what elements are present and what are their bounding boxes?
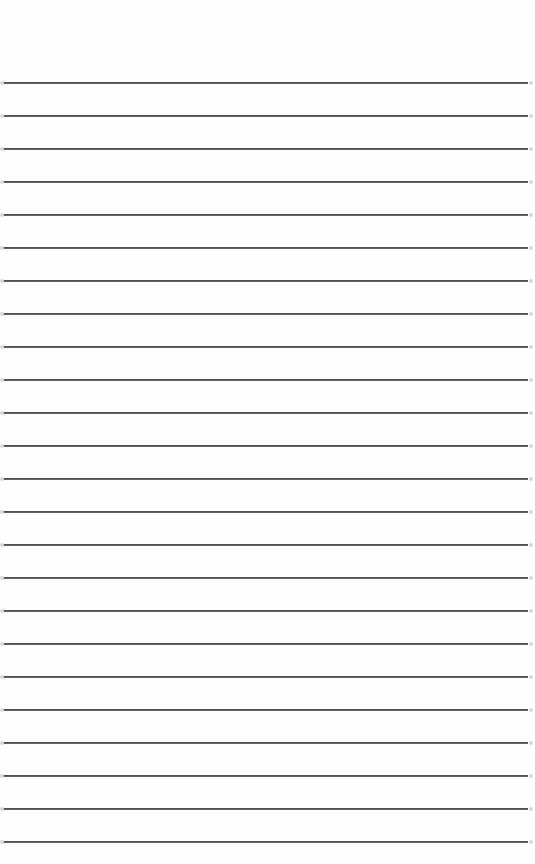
margin-speck [529, 576, 533, 580]
margin-speck [0, 345, 4, 349]
margin-speck [0, 708, 4, 712]
margin-speck [0, 774, 4, 778]
margin-speck [529, 840, 533, 844]
margin-speck [529, 345, 533, 349]
margin-speck [529, 246, 533, 250]
ruled-line [3, 412, 528, 414]
ruled-line [3, 247, 528, 249]
margin-speck [529, 213, 533, 217]
margin-speck [529, 543, 533, 547]
margin-speck [529, 741, 533, 745]
margin-speck [0, 411, 4, 415]
ruled-line [3, 775, 528, 777]
margin-speck [529, 147, 533, 151]
margin-speck [0, 840, 4, 844]
margin-speck [0, 444, 4, 448]
margin-speck [0, 576, 4, 580]
ruled-line [3, 346, 528, 348]
margin-speck [0, 114, 4, 118]
margin-speck [0, 246, 4, 250]
margin-speck [0, 543, 4, 547]
margin-speck [529, 312, 533, 316]
margin-speck [0, 378, 4, 382]
margin-speck [0, 609, 4, 613]
margin-speck [0, 312, 4, 316]
ruled-line [3, 214, 528, 216]
ruled-line [3, 808, 528, 810]
margin-speck [529, 81, 533, 85]
ruled-line [3, 676, 528, 678]
ruled-line [3, 82, 528, 84]
margin-speck [0, 477, 4, 481]
margin-speck [529, 477, 533, 481]
margin-speck [529, 180, 533, 184]
margin-speck [0, 741, 4, 745]
margin-speck [0, 213, 4, 217]
margin-speck [0, 642, 4, 646]
margin-speck [529, 378, 533, 382]
margin-speck [529, 675, 533, 679]
ruled-line [3, 577, 528, 579]
ruled-line [3, 643, 528, 645]
margin-speck [0, 81, 4, 85]
ruled-line [3, 709, 528, 711]
margin-speck [529, 510, 533, 514]
ruled-line [3, 280, 528, 282]
ruled-line [3, 610, 528, 612]
margin-speck [529, 114, 533, 118]
margin-speck [0, 147, 4, 151]
margin-speck [0, 807, 4, 811]
ruled-line [3, 544, 528, 546]
margin-speck [529, 444, 533, 448]
ruled-line [3, 148, 528, 150]
ruled-line [3, 478, 528, 480]
ruled-line [3, 841, 528, 843]
ruled-line [3, 115, 528, 117]
margin-speck [529, 609, 533, 613]
margin-speck [529, 279, 533, 283]
ruled-line [3, 511, 528, 513]
margin-speck [0, 510, 4, 514]
ruled-line [3, 445, 528, 447]
ruled-line [3, 313, 528, 315]
margin-speck [529, 708, 533, 712]
margin-speck [0, 180, 4, 184]
margin-speck [529, 411, 533, 415]
ruled-line [3, 181, 528, 183]
margin-speck [529, 642, 533, 646]
margin-speck [529, 807, 533, 811]
margin-speck [0, 675, 4, 679]
ruled-line [3, 742, 528, 744]
margin-speck [0, 279, 4, 283]
ruled-line [3, 379, 528, 381]
lined-paper-sheet [0, 0, 535, 864]
margin-speck [529, 774, 533, 778]
